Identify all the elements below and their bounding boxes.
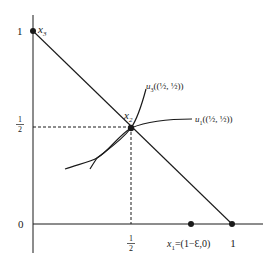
diagram-canvas: 1 1 2 0 1 2 1 x3 x2 x1=(1−Ɛ,0) u3((½, ½)… [0, 0, 278, 267]
y-tick-1: 1 [17, 25, 23, 37]
svg-text:1: 1 [129, 234, 133, 243]
u3-indifference-curve [90, 89, 146, 169]
label-x1: x1=(1−Ɛ,0) [166, 238, 210, 252]
point-x3 [30, 28, 36, 34]
y-tick-half: 1 2 [16, 115, 24, 134]
label-u1: u1((½, ½)) [195, 114, 233, 126]
label-u3: u3((½, ½)) [146, 81, 184, 93]
point-one-zero [229, 221, 235, 227]
svg-text:1: 1 [18, 115, 22, 124]
x-tick-half: 1 2 [127, 234, 135, 253]
point-x1 [188, 221, 194, 227]
x-tick-1: 1 [230, 237, 236, 249]
svg-text:2: 2 [18, 125, 22, 134]
svg-text:2: 2 [129, 244, 133, 253]
y-tick-0: 0 [18, 218, 24, 230]
point-x2 [128, 125, 134, 131]
label-x2: x2 [123, 109, 133, 124]
